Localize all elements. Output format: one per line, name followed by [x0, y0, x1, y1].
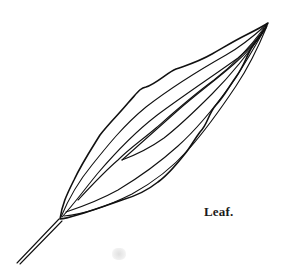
leaf-illustration — [0, 0, 285, 279]
faint-stamp-mark — [112, 248, 126, 260]
leaf-stem — [17, 219, 62, 264]
leaf-veins — [61, 25, 267, 217]
figure-caption: Leaf. — [204, 204, 234, 220]
